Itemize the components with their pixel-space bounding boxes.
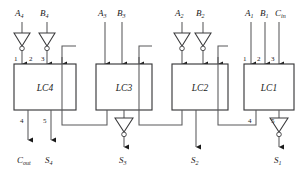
pin-label-lc4-1: 1 xyxy=(14,55,18,63)
input-label-cin: Cin xyxy=(275,8,286,19)
pin-label-lc4-2: 2 xyxy=(29,55,33,63)
pin-label-lc1-3: 3 xyxy=(271,55,275,63)
inverter-s3 xyxy=(115,118,133,132)
pin-label-lc4-4: 4 xyxy=(20,117,24,125)
output-label-s2: S2 xyxy=(191,155,199,166)
inverter-bubble-a2 xyxy=(180,46,185,51)
schematic-canvas: LC4 LC3 LC2 LC1 xyxy=(0,0,305,171)
inverter-bubble-b2 xyxy=(201,46,206,51)
input-label-b3: B3 xyxy=(117,8,126,19)
output-label-s4: S4 xyxy=(45,155,53,166)
pin-label-lc4-5: 5 xyxy=(43,117,47,125)
inverter-a4 xyxy=(14,33,30,46)
block-lc1-label: LC1 xyxy=(260,83,277,93)
inverter-bubble-b4 xyxy=(45,46,50,51)
output-label-group: Cout S4 S3 S2 S1 xyxy=(17,155,282,166)
block-lc2-label: LC2 xyxy=(191,83,209,93)
pin-label-lc4-3: 3 xyxy=(41,55,45,63)
inverter-b2 xyxy=(195,33,211,46)
output-label-cout: Cout xyxy=(17,155,31,166)
pin-label-lc1-2: 2 xyxy=(257,55,261,63)
block-lc3-label: LC3 xyxy=(115,83,133,93)
input-label-b4: B4 xyxy=(40,8,49,19)
inverter-bubble-s3 xyxy=(122,132,127,137)
input-label-b2: B2 xyxy=(196,8,205,19)
block-lc1-group: LC1 xyxy=(218,22,294,147)
input-label-a4: A4 xyxy=(14,8,24,19)
input-label-group: A4 B4 A3 B3 A2 B2 A1 B1 Cin xyxy=(14,8,286,19)
inverter-b4 xyxy=(39,33,55,46)
pin-label-lc1-1: 1 xyxy=(243,55,247,63)
pin-label-lc1-5: 5 xyxy=(271,117,275,125)
inverter-bubble-a4 xyxy=(20,46,25,51)
inverter-a2 xyxy=(174,33,190,46)
input-label-a1: A1 xyxy=(244,8,254,19)
circuit-diagram: LC4 LC3 LC2 LC1 xyxy=(0,0,305,171)
input-label-b1: B1 xyxy=(260,8,269,19)
block-lc4-label: LC4 xyxy=(36,83,54,93)
input-label-a2: A2 xyxy=(174,8,184,19)
pin-label-lc1-4: 4 xyxy=(248,117,252,125)
inverter-bubble-s1 xyxy=(277,132,282,137)
input-label-a3: A3 xyxy=(97,8,107,19)
output-label-s3: S3 xyxy=(119,155,127,166)
output-label-s1: S1 xyxy=(274,155,282,166)
